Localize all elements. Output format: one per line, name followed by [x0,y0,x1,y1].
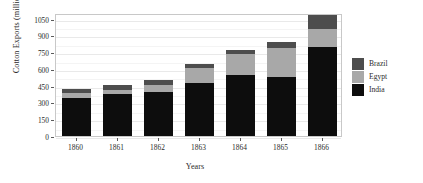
y-tick-1050 [51,20,54,21]
bar-segment-1865-brazil [267,42,297,48]
bar-segment-1860-india [62,98,92,136]
x-tick-label-1861: 1861 [97,143,137,152]
bar-segment-1863-india [185,83,215,136]
bar-1866 [308,15,338,136]
y-tick-750 [51,53,54,54]
x-tick-label-1860: 1860 [56,143,96,152]
x-tick-1861 [117,138,118,141]
x-tick-label-1866: 1866 [302,143,342,152]
x-tick-1860 [76,138,77,141]
x-tick-label-1863: 1863 [179,143,219,152]
x-tick-1862 [158,138,159,141]
y-tick-label-900: 900 [17,32,49,41]
bar-segment-1864-egypt [226,54,256,74]
plot-panel [55,14,342,137]
bar-segment-1861-egypt [103,90,133,94]
bar-segment-1866-egypt [308,29,338,47]
bar-segment-1862-brazil [144,80,174,85]
x-tick-label-1862: 1862 [138,143,178,152]
legend-swatch-india [352,84,364,96]
bar-segment-1860-brazil [62,89,92,93]
legend-item-brazil[interactable]: Brazil [352,57,388,70]
y-tick-0 [51,137,54,138]
bar-segment-1864-india [226,75,256,136]
legend: BrazilEgyptIndia [352,57,388,96]
bar-segment-1866-india [308,47,338,136]
y-tick-label-750: 750 [17,49,49,58]
bar-segment-1865-egypt [267,48,297,77]
y-tick-label-1050: 1050 [17,16,49,25]
legend-item-india[interactable]: India [352,83,388,96]
bar-series-layer [56,15,341,136]
bar-segment-1861-brazil [103,85,133,90]
y-tick-300 [51,103,54,104]
bar-1860 [62,89,92,136]
bar-segment-1863-egypt [185,68,215,83]
x-tick-1866 [322,138,323,141]
bar-1861 [103,85,133,136]
bar-segment-1860-egypt [62,93,92,98]
y-tick-150 [51,120,54,121]
x-tick-label-1865: 1865 [261,143,301,152]
x-tick-1863 [199,138,200,141]
y-tick-600 [51,70,54,71]
legend-swatch-brazil [352,58,364,70]
y-tick-label-600: 600 [17,66,49,75]
bar-1863 [185,64,215,136]
cotton-exports-stacked-bar-chart: Cotton Exports (millions lbs) Years 0150… [0,0,423,183]
y-tick-450 [51,87,54,88]
x-tick-label-1864: 1864 [220,143,260,152]
bar-segment-1861-india [103,94,133,136]
x-tick-1865 [281,138,282,141]
bar-1865 [267,42,297,136]
bar-segment-1863-brazil [185,64,215,68]
y-tick-label-300: 300 [17,99,49,108]
bar-segment-1865-india [267,77,297,136]
y-tick-label-0: 0 [17,133,49,142]
legend-swatch-egypt [352,71,364,83]
legend-item-egypt[interactable]: Egypt [352,70,388,83]
y-tick-label-150: 150 [17,116,49,125]
legend-label-brazil: Brazil [369,59,388,68]
bar-segment-1864-brazil [226,50,256,54]
y-tick-label-450: 450 [17,83,49,92]
legend-label-egypt: Egypt [369,72,387,81]
x-tick-1864 [240,138,241,141]
bar-1862 [144,80,174,136]
y-tick-900 [51,36,54,37]
legend-label-india: India [369,85,385,94]
bar-segment-1862-egypt [144,85,174,92]
x-axis-title: Years [40,162,350,171]
bar-1864 [226,50,256,136]
bar-segment-1862-india [144,92,174,136]
bar-segment-1866-brazil [308,15,338,29]
